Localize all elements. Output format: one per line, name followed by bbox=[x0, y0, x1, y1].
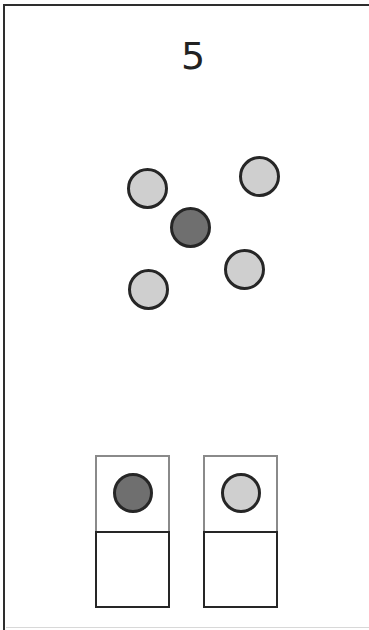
game-frame bbox=[3, 4, 369, 630]
dark-dot-icon bbox=[113, 473, 153, 513]
counter-number: 5 bbox=[0, 33, 369, 79]
choice-sample-dark bbox=[95, 455, 170, 532]
answer-box-light[interactable] bbox=[203, 531, 278, 608]
dark-dot-icon bbox=[170, 207, 211, 248]
light-dot-icon bbox=[221, 473, 261, 513]
light-dot-icon bbox=[128, 269, 169, 310]
light-dot-icon bbox=[127, 168, 168, 209]
light-dot-icon bbox=[224, 249, 265, 290]
light-dot-icon bbox=[239, 156, 280, 197]
choice-sample-light bbox=[203, 455, 278, 532]
bottom-divider bbox=[6, 627, 369, 628]
answer-box-dark[interactable] bbox=[95, 531, 170, 608]
